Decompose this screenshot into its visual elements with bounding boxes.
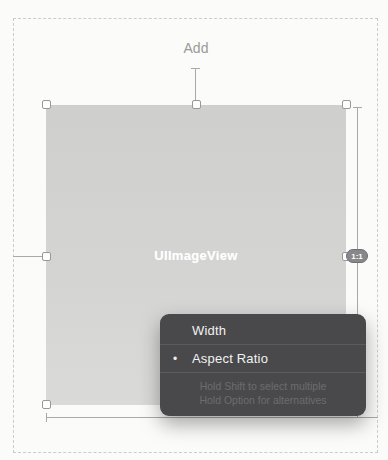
menu-item-aspect-ratio[interactable]: • Aspect Ratio	[160, 345, 366, 372]
resize-handle-middle-left[interactable]	[42, 252, 51, 261]
menu-item-width-label: Width	[192, 323, 226, 338]
aspect-ratio-badge[interactable]: 1:1	[346, 249, 368, 263]
menu-item-width[interactable]: Width	[160, 317, 366, 344]
width-dimension-line	[46, 417, 378, 418]
popup-hints: Hold Shift to select multiple Hold Optio…	[160, 373, 366, 416]
resize-handle-top-right[interactable]	[342, 100, 351, 109]
selected-bullet-icon: •	[173, 353, 192, 365]
design-canvas: Add UIImageView 1:1 Width • Aspect Ratio…	[0, 0, 388, 460]
add-constraint-label: Add	[176, 40, 216, 56]
left-edge-connector-line	[13, 256, 42, 257]
hint-line-1: Hold Shift to select multiple	[168, 380, 358, 394]
uiimageview-label: UIImageView	[154, 248, 237, 263]
resize-handle-bottom-left[interactable]	[42, 400, 51, 409]
add-drag-line	[195, 69, 196, 102]
resize-handle-top-left[interactable]	[42, 100, 51, 109]
constraint-popup: Width • Aspect Ratio Hold Shift to selec…	[160, 314, 366, 416]
hint-line-2: Hold Option for alternatives	[168, 394, 358, 408]
resize-handle-top-middle[interactable]	[192, 100, 201, 109]
menu-item-aspect-ratio-label: Aspect Ratio	[192, 351, 268, 366]
